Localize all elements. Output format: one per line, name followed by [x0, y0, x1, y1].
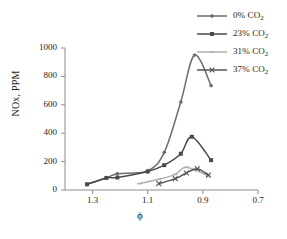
y-axis-tick-label: 1000	[23, 42, 57, 52]
figure-container: NOx, PPM ϕ 02004006008001000 1.31.10.90.…	[0, 0, 287, 239]
legend-item-3[interactable]: 37% CO2	[196, 62, 286, 78]
x-axis-tick-label: 1.3	[78, 195, 108, 205]
data-point-marker	[162, 163, 166, 167]
series-line	[87, 55, 211, 184]
data-point-marker	[115, 171, 119, 175]
x-axis-tick-label: 1.1	[133, 195, 163, 205]
data-point-marker	[179, 100, 183, 104]
y-axis-tick-label: 0	[23, 184, 57, 194]
legend-swatch-icon	[196, 64, 228, 76]
legend-item-0[interactable]: 0% CO2	[196, 8, 286, 24]
data-point-marker	[146, 170, 150, 174]
legend-item-1[interactable]: 23% CO2	[196, 26, 286, 42]
x-axis-tick-label: 0.9	[188, 195, 218, 205]
series-line	[159, 169, 209, 184]
legend-swatch-icon	[196, 46, 228, 58]
y-axis-tick-label: 600	[23, 99, 57, 109]
series-3	[156, 166, 210, 186]
data-point-marker	[210, 32, 214, 36]
legend-label: 0% CO2	[233, 10, 264, 22]
data-point-marker	[209, 158, 213, 162]
x-axis-tick-label: 0.7	[243, 195, 273, 205]
chart-legend: 0% CO223% CO231% CO237% CO2	[196, 8, 286, 80]
y-axis-tick-label: 200	[23, 156, 57, 166]
legend-label: 23% CO2	[233, 28, 268, 40]
data-point-marker	[85, 182, 89, 186]
data-point-marker	[115, 176, 119, 180]
legend-label: 37% CO2	[233, 64, 268, 76]
data-point-marker	[104, 176, 108, 180]
data-point-marker	[209, 83, 213, 87]
legend-swatch-icon	[196, 28, 228, 40]
data-point-marker	[210, 14, 214, 18]
y-axis-tick-label: 800	[23, 70, 57, 80]
legend-label: 31% CO2	[233, 46, 268, 58]
series-0	[85, 53, 213, 187]
y-axis-tick-label: 400	[23, 127, 57, 137]
legend-swatch-icon	[196, 10, 228, 22]
y-axis-label: NOx, PPM	[10, 54, 21, 134]
series-1	[85, 135, 213, 187]
data-point-marker	[190, 135, 194, 139]
legend-item-2[interactable]: 31% CO2	[196, 44, 286, 60]
data-point-marker	[179, 152, 183, 156]
x-axis-label: ϕ	[110, 209, 170, 221]
